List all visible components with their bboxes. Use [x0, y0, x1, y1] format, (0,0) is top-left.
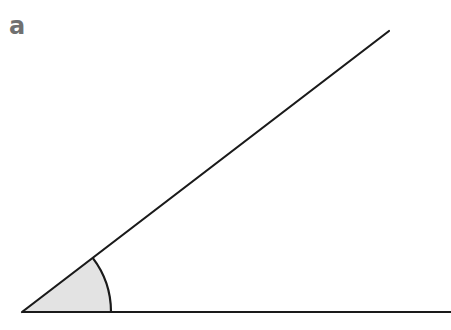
upper-ray — [22, 31, 389, 312]
angle-diagram — [0, 0, 451, 330]
